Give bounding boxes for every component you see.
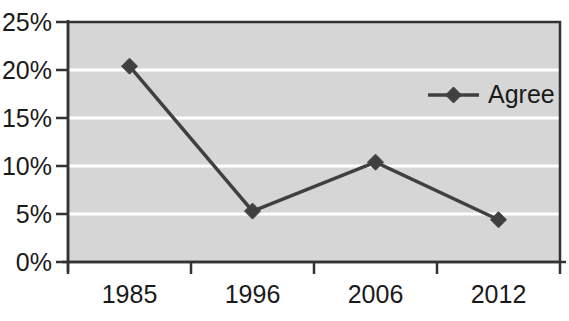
x-axis-ticks-group bbox=[68, 262, 560, 274]
y-axis-ticks-group bbox=[56, 22, 68, 262]
x-axis-labels-group: 1985199620062012 bbox=[102, 280, 527, 308]
x-axis-tick-label: 1985 bbox=[102, 280, 158, 308]
line-chart: 0%5%10%15%20%25% 1985199620062012 Agree bbox=[0, 0, 569, 321]
chart-canvas: 0%5%10%15%20%25% 1985199620062012 Agree bbox=[0, 0, 569, 321]
y-axis-tick-label: 0% bbox=[16, 248, 52, 276]
x-axis-tick-label: 2012 bbox=[471, 280, 527, 308]
y-axis-tick-label: 10% bbox=[2, 152, 52, 180]
legend-label-agree: Agree bbox=[488, 80, 555, 108]
y-axis-tick-label: 20% bbox=[2, 56, 52, 84]
y-axis-tick-label: 15% bbox=[2, 104, 52, 132]
x-axis-tick-label: 2006 bbox=[348, 280, 404, 308]
x-axis-tick-label: 1996 bbox=[225, 280, 281, 308]
plot-area-background bbox=[68, 22, 560, 262]
y-axis-tick-label: 25% bbox=[2, 8, 52, 36]
y-axis-tick-label: 5% bbox=[16, 200, 52, 228]
y-axis-labels-group: 0%5%10%15%20%25% bbox=[2, 8, 52, 276]
